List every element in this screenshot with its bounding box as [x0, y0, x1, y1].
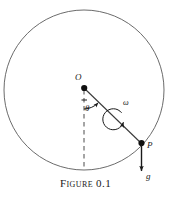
label-angular-velocity-omega: ω	[123, 99, 129, 107]
label-angle-theta: θ	[85, 104, 89, 113]
center-dot-O	[81, 85, 87, 91]
label-center-O: O	[75, 73, 82, 82]
figure-container: O θ ω P g Figure 0.1	[0, 0, 171, 197]
omega-loop-arrow	[103, 109, 124, 130]
figure-caption: Figure 0.1	[0, 177, 171, 189]
label-particle-P: P	[147, 141, 153, 150]
figure-drawing	[0, 0, 171, 197]
radius-line-OP	[84, 88, 142, 144]
